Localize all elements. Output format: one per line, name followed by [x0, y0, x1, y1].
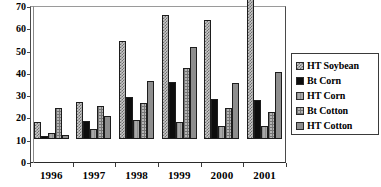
bar — [183, 68, 190, 139]
bar — [169, 82, 176, 139]
x-axis-tick-label: 2001 — [243, 169, 287, 181]
bar — [126, 97, 133, 139]
bar — [268, 112, 275, 139]
bar-group — [30, 0, 73, 163]
bar — [218, 126, 225, 139]
x-axis-tick-mark — [201, 163, 202, 167]
legend-label-ht-corn: HT Corn — [307, 91, 345, 101]
legend-swatch-ht-cotton-icon — [296, 122, 304, 130]
x-axis-tick-label: 1996 — [29, 169, 73, 181]
bar-group — [115, 0, 158, 163]
x-axis-tick-mark — [286, 163, 287, 167]
bar — [90, 129, 97, 139]
x-axis-tick-mark — [30, 163, 31, 167]
y-axis-tick-label: 10 — [0, 136, 26, 146]
bar — [133, 120, 140, 139]
bar — [204, 20, 211, 139]
bar — [247, 0, 254, 139]
bar — [48, 133, 55, 139]
y-axis-tick-label: 50 — [0, 47, 26, 57]
x-axis-tick-label: 2000 — [200, 169, 244, 181]
legend-label-bt-corn: Bt Corn — [307, 76, 341, 86]
legend-item-ht-cotton: HT Cotton — [296, 118, 375, 133]
legend-item-ht-corn: HT Corn — [296, 88, 375, 103]
y-axis-tick-label: 0 — [0, 158, 26, 168]
bar — [34, 122, 41, 139]
bar — [104, 116, 111, 139]
legend-swatch-bt-corn-icon — [296, 77, 304, 85]
bar — [76, 102, 83, 139]
bar — [162, 15, 169, 139]
legend-item-bt-corn: Bt Corn — [296, 73, 375, 88]
bar — [254, 100, 261, 139]
bar — [119, 41, 126, 139]
bar-chart: 010203040506070 199619971998199920002001… — [0, 0, 381, 187]
legend-swatch-ht-corn-icon — [296, 92, 304, 100]
x-axis-tick-label: 1999 — [157, 169, 201, 181]
y-axis-tick-label: 40 — [0, 69, 26, 79]
y-axis-tick-label: 60 — [0, 24, 26, 34]
bar — [225, 108, 232, 139]
legend-swatch-ht-soybean-icon — [296, 62, 304, 70]
x-axis-tick-label: 1997 — [72, 169, 116, 181]
bar — [176, 122, 183, 139]
legend-label-bt-cotton: Bt Cotton — [307, 106, 348, 116]
bar-group — [243, 0, 286, 163]
x-axis-tick-label: 1998 — [115, 169, 159, 181]
legend-label-ht-cotton: HT Cotton — [307, 121, 352, 131]
x-axis-tick-mark — [158, 163, 159, 167]
bar — [83, 121, 90, 139]
legend-swatch-bt-cotton-icon — [296, 107, 304, 115]
bar — [190, 47, 197, 139]
bar — [232, 83, 239, 139]
bar-group — [201, 0, 244, 163]
bar — [41, 136, 48, 139]
bar — [211, 99, 218, 139]
chart-legend: HT Soybean Bt Corn HT Corn Bt Cotton HT … — [291, 53, 379, 135]
bar — [147, 81, 154, 139]
bar — [261, 126, 268, 139]
bar — [62, 135, 69, 139]
y-axis-tick-label: 30 — [0, 91, 26, 101]
legend-item-ht-soybean: HT Soybean — [296, 58, 375, 73]
bar-group — [158, 0, 201, 163]
x-axis-tick-mark — [115, 163, 116, 167]
legend-label-ht-soybean: HT Soybean — [307, 61, 359, 71]
bar — [97, 106, 104, 139]
bar — [140, 103, 147, 139]
x-axis-tick-mark — [243, 163, 244, 167]
y-axis-tick-label: 70 — [0, 2, 26, 12]
y-axis-tick-label: 20 — [0, 113, 26, 123]
bar — [55, 108, 62, 139]
bar — [275, 72, 282, 139]
legend-item-bt-cotton: Bt Cotton — [296, 103, 375, 118]
x-axis-tick-mark — [73, 163, 74, 167]
bar-group — [73, 0, 116, 163]
